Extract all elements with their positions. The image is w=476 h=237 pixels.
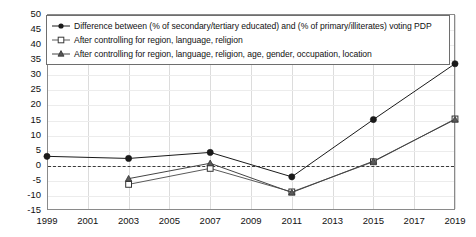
x-tick-label: 2015	[363, 216, 384, 226]
triangle-marker-icon	[51, 48, 71, 60]
open-square-marker-icon	[51, 34, 71, 46]
x-tick-label: 1999	[36, 216, 57, 226]
x-tick-label: 2001	[77, 216, 98, 226]
x-tick-label: 2005	[159, 216, 180, 226]
x-tick-label: 2017	[404, 216, 425, 226]
chart-legend: Difference between (% of secondary/terti…	[46, 15, 450, 65]
legend-item-controls-full: After controlling for region, language, …	[51, 47, 445, 61]
legend-label-controls-full: After controlling for region, language, …	[74, 49, 372, 59]
chart-container: 50454035302520151050-5-10-15 19992001200…	[0, 0, 476, 237]
x-tick-label: 2007	[200, 216, 221, 226]
x-tick-label: 2003	[118, 216, 139, 226]
legend-item-controls-basic: After controlling for region, language, …	[51, 33, 445, 47]
x-tick-label: 2013	[322, 216, 343, 226]
x-tick-label: 2009	[240, 216, 261, 226]
x-tick-label: 2019	[444, 216, 465, 226]
x-tick-label: 2011	[282, 216, 302, 226]
legend-label-difference: Difference between (% of secondary/terti…	[74, 21, 432, 31]
legend-item-difference: Difference between (% of secondary/terti…	[51, 19, 445, 33]
legend-label-controls-basic: After controlling for region, language, …	[74, 35, 243, 45]
filled-circle-marker-icon	[51, 20, 71, 32]
